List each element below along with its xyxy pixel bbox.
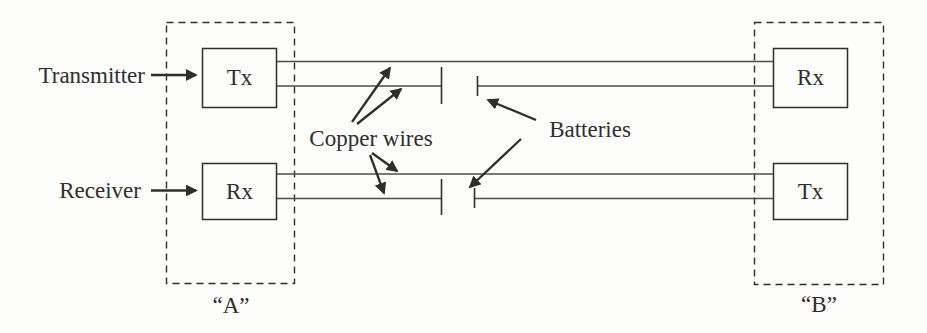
rx-label-a: Rx xyxy=(226,179,253,204)
station-a-caption: “A” xyxy=(212,293,249,318)
transmitter-label: Transmitter xyxy=(39,63,146,88)
batteries-label: Batteries xyxy=(549,117,631,142)
two-wire-line-diagram: Tx Rx Rx Tx Transmitter Receiver Copper … xyxy=(0,0,927,333)
batteries-arrow-top xyxy=(488,100,536,120)
receiver-label: Receiver xyxy=(59,178,141,203)
rx-label-b: Rx xyxy=(797,65,824,90)
diagram-svg: Tx Rx Rx Tx Transmitter Receiver Copper … xyxy=(0,0,927,333)
station-a-dashed-boundary xyxy=(167,23,295,284)
batteries-arrow-bottom xyxy=(470,139,521,187)
copper-wires-label: Copper wires xyxy=(309,126,432,151)
station-b-caption: “B” xyxy=(801,292,837,317)
tx-label-b: Tx xyxy=(798,179,824,204)
tx-label-a: Tx xyxy=(227,65,253,90)
